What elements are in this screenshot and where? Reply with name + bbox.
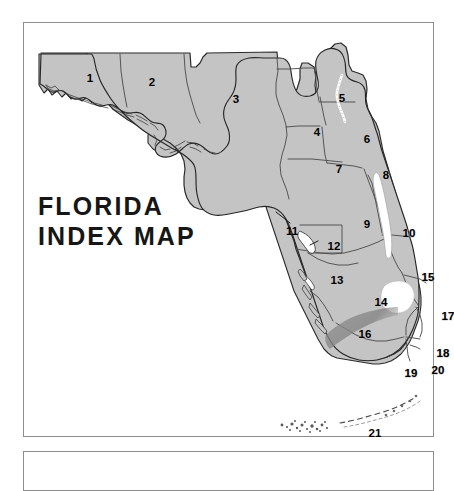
region-label-9: 9 — [364, 219, 370, 231]
region-label-4: 4 — [314, 127, 320, 139]
region-label-12: 12 — [328, 241, 341, 253]
region-label-8: 8 — [383, 170, 389, 182]
region-label-14: 14 — [375, 297, 388, 309]
region-label-5: 5 — [339, 93, 345, 105]
region-label-6: 6 — [364, 134, 370, 146]
region-label-10: 10 — [403, 228, 416, 240]
region-label-15: 15 — [422, 272, 435, 284]
region-label-16: 16 — [359, 329, 372, 341]
florida-keys — [281, 395, 420, 433]
florida-map — [24, 23, 435, 438]
florida-index-map-panel: FLORIDA INDEX MAP 1234567891011121314151… — [23, 22, 434, 437]
region-label-3: 3 — [233, 94, 239, 106]
region-label-17: 17 — [442, 311, 454, 323]
region-label-7: 7 — [336, 164, 342, 176]
region-label-18: 18 — [437, 348, 450, 360]
region-label-2: 2 — [149, 77, 155, 89]
region-label-21: 21 — [369, 428, 382, 440]
region-label-1: 1 — [87, 73, 93, 85]
empty-panel-below — [23, 451, 434, 491]
region-label-20: 20 — [432, 365, 445, 377]
region-label-11: 11 — [286, 226, 298, 238]
region-label-19: 19 — [405, 368, 418, 380]
region-label-13: 13 — [331, 275, 344, 287]
